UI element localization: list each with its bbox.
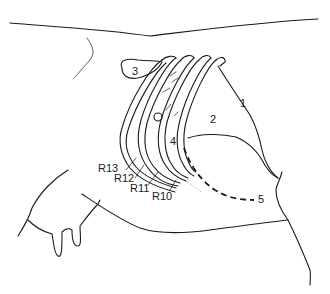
label-region-1: 1	[240, 98, 246, 109]
udder-teats	[28, 200, 100, 256]
label-region-5: 5	[258, 194, 264, 205]
region-3-outline	[121, 59, 162, 78]
cow-flank-drawing	[0, 0, 330, 294]
right-flank-outline	[276, 172, 310, 285]
label-region-2: 2	[210, 114, 216, 125]
label-region-4: 4	[170, 136, 176, 147]
label-rib-10: R10	[152, 191, 172, 202]
label-region-3: 3	[132, 66, 138, 77]
back-outline	[10, 19, 318, 36]
udder-outline	[18, 170, 68, 236]
dotted-extension	[188, 182, 202, 192]
hip-squiggle	[74, 38, 93, 78]
region-1-2-outline	[218, 66, 278, 178]
label-rib-11: R11	[130, 183, 149, 194]
region-2-lower-outline	[188, 134, 278, 178]
dashed-line-5	[184, 148, 254, 200]
